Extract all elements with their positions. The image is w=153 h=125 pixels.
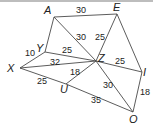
edge-weight-e-z: 25: [95, 32, 105, 42]
edge-weight-u-z: 18: [70, 67, 80, 77]
edge-weight-a-z: 30: [76, 32, 86, 42]
vertex-label-a: A: [43, 4, 51, 16]
vertex-label-y: Y: [36, 42, 44, 54]
edge-weight-y-z: 25: [62, 45, 72, 55]
edge-weight-labels: 303025102532251835253018: [25, 5, 150, 105]
vertex-label-i: I: [143, 66, 146, 78]
vertex-label-x: X: [6, 62, 15, 74]
vertex-label-o: O: [129, 113, 138, 125]
edge-weight-a-e: 30: [76, 5, 86, 15]
weighted-graph-diagram: 303025102532251835253018 AEYXZUIO: [0, 0, 153, 125]
edge-weight-u-o: 35: [91, 95, 101, 105]
vertex-label-u: U: [60, 83, 68, 95]
edge-a-y: [45, 17, 54, 52]
vertex-label-e: E: [113, 1, 121, 13]
edge-weight-x-z: 32: [50, 57, 60, 67]
edge-weight-x-u: 25: [37, 76, 47, 86]
edge-weight-y-x: 10: [25, 48, 35, 58]
vertex-label-z: Z: [97, 52, 106, 64]
edge-weight-z-o: 30: [103, 80, 113, 90]
edge-weight-z-i: 25: [115, 56, 125, 66]
edge-weight-i-o: 18: [140, 87, 150, 97]
